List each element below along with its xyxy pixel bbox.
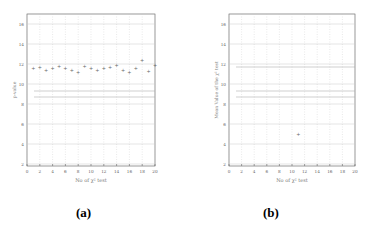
x-tick-label: 2 [38,169,41,174]
data-point-marker: + [102,65,106,71]
data-point-marker: + [153,62,157,68]
x-tick-label: 16 [327,169,333,174]
data-point-marker: + [134,65,138,71]
data-point-marker: + [70,67,74,73]
data-point-marker: + [127,69,131,75]
y-tick-label: 10 [221,82,227,87]
y-tick-label: 6 [21,122,24,127]
x-tick-label: 16 [127,169,133,174]
data-point-marker: + [146,68,150,74]
data-point-marker: + [63,65,67,71]
data-point-marker: + [82,63,86,69]
x-tick-label: 10 [289,169,295,174]
y-tick-label: 16 [221,22,227,27]
y-tick-label: 16 [19,22,25,27]
chart-a: 02468101214161820246810121416No of χ² te… [0,0,185,195]
chart-b-plot: 02468101214161820246810121416No of χ² te… [185,0,370,195]
y-tick-label: 14 [221,42,227,47]
x-tick-label: 14 [114,169,120,174]
x-tick-label: 2 [240,169,243,174]
y-tick-label: 8 [223,102,226,107]
data-point-marker: + [108,64,112,70]
y-tick-label: 12 [221,62,227,67]
y-tick-label: 4 [223,142,226,147]
data-point-marker: + [114,62,118,68]
x-tick-label: 18 [140,169,146,174]
y-tick-label: 10 [19,82,25,87]
x-tick-label: 4 [253,169,256,174]
x-tick-label: 20 [352,169,358,174]
y-axis-label: p-value [12,81,17,98]
x-tick-label: 12 [101,169,107,174]
data-point-marker: + [89,65,93,71]
x-tick-label: 18 [340,169,346,174]
chart-a-plot: 02468101214161820246810121416No of χ² te… [0,0,185,195]
chart-b: 02468101214161820246810121416No of χ² te… [185,0,370,195]
data-point-marker: + [296,131,300,137]
y-tick-label: 2 [21,162,24,167]
x-tick-label: 8 [278,169,281,174]
y-tick-label: 6 [223,122,226,127]
data-point-marker: + [31,65,35,71]
x-tick-label: 4 [51,169,54,174]
x-tick-label: 0 [26,169,29,174]
y-axis-label: Mean Value of the χ² test [214,61,219,119]
x-tick-label: 10 [88,169,94,174]
x-tick-label: 12 [302,169,308,174]
y-tick-label: 14 [19,42,25,47]
y-tick-label: 4 [21,142,24,147]
x-tick-label: 6 [64,169,67,174]
x-tick-label: 8 [77,169,80,174]
caption-a: (a) [76,205,91,221]
data-point-marker: + [140,57,144,63]
x-axis-label: No of χ² test [75,177,107,184]
caption-b: (b) [263,205,279,221]
x-tick-label: 14 [315,169,321,174]
x-axis-label: No of χ² test [276,177,308,184]
data-point-marker: + [50,65,54,71]
data-point-marker: + [57,63,61,69]
data-point-marker: + [44,67,48,73]
x-tick-label: 0 [228,169,231,174]
y-tick-label: 2 [223,162,226,167]
x-tick-label: 6 [265,169,268,174]
data-point-marker: + [76,69,80,75]
y-tick-label: 8 [21,102,24,107]
x-tick-label: 20 [152,169,158,174]
y-tick-label: 12 [19,62,25,67]
data-point-marker: + [38,64,42,70]
data-point-marker: + [95,67,99,73]
data-point-marker: + [121,67,125,73]
